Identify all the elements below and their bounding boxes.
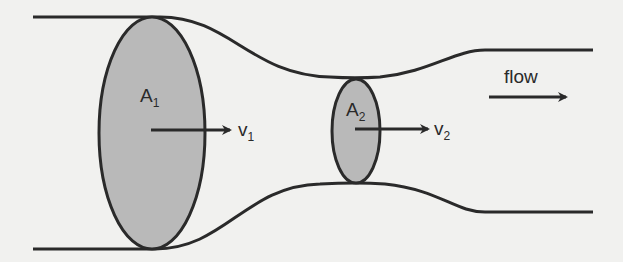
- pipe-flow-diagram: A1 v1 A2 v2 flow: [0, 0, 623, 262]
- flow-label: flow: [504, 66, 538, 87]
- velocity-label-v1: v1: [238, 119, 255, 144]
- velocity-label-v2: v2: [434, 118, 451, 143]
- cross-section-a1: [99, 17, 205, 249]
- cross-section-a2: [332, 79, 380, 183]
